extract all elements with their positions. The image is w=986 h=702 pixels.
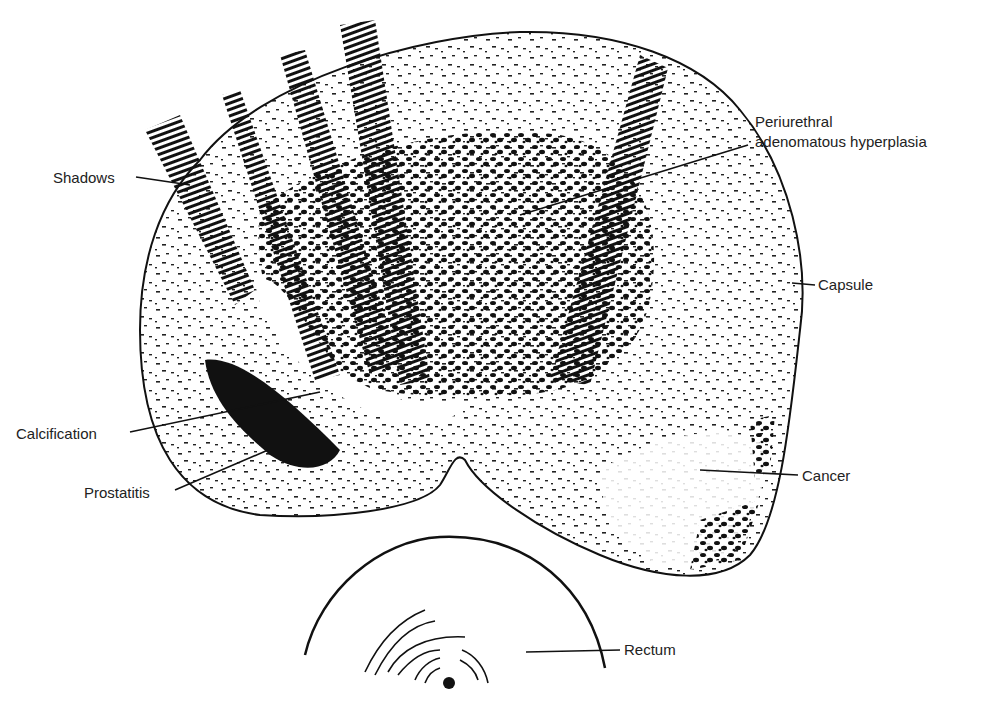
label-periurethral-line1: Periurethral: [755, 112, 833, 131]
label-capsule: Capsule: [818, 275, 873, 294]
label-periurethral-line2: adenomatous hyperplasia: [755, 132, 927, 151]
diagram-drawing: [0, 0, 986, 702]
label-prostatitis: Prostatitis: [84, 483, 150, 502]
label-shadows: Shadows: [53, 168, 115, 187]
label-calcification: Calcification: [16, 424, 97, 443]
label-cancer: Cancer: [802, 466, 850, 485]
rectum: [305, 537, 605, 689]
prostate-ultrasound-diagram: Shadows Periurethral adenomatous hyperpl…: [0, 0, 986, 702]
label-rectum: Rectum: [624, 640, 676, 659]
